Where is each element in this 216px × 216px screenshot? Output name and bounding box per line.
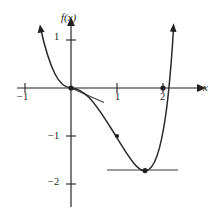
function-curve <box>41 28 174 171</box>
curve-left-arrow-icon <box>38 25 45 34</box>
x-axis-label: x <box>203 82 208 93</box>
point-inflection <box>115 134 119 138</box>
y-tick-label-neg1: −1 <box>48 131 59 142</box>
graph-canvas <box>0 0 216 216</box>
y-tick-label-1: 1 <box>54 32 59 43</box>
point-root-x2 <box>160 85 165 90</box>
y-axis-label: f(x) <box>61 12 76 23</box>
x-tick-label-2: 2 <box>160 92 165 103</box>
curve-right-arrow-icon <box>170 23 177 32</box>
x-tick-label-1: 1 <box>115 92 120 103</box>
y-tick-label-neg2: −2 <box>48 177 59 188</box>
function-graph-figure: −1 1 2 1 −1 −2 f(x) x <box>0 0 216 216</box>
x-tick-label-neg1: −1 <box>17 92 28 103</box>
point-origin <box>68 85 73 90</box>
point-local-minimum <box>142 168 147 173</box>
